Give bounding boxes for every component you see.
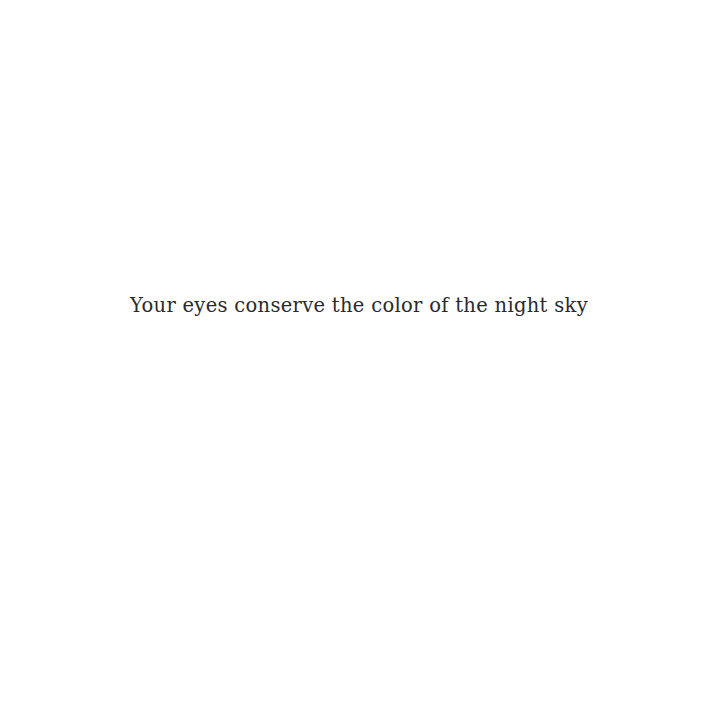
poem-line: Your eyes conserve the color of the nigh… [0, 294, 710, 317]
book-page: Your eyes conserve the color of the nigh… [0, 0, 710, 718]
